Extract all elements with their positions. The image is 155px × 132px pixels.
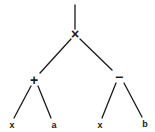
- leaf-x-left: x: [9, 120, 14, 130]
- edge-minus-to-b: [124, 83, 142, 117]
- edge-root-to-minus: [80, 39, 112, 70]
- edge-plus-to-x: [14, 86, 31, 118]
- expression-tree-diagram: × + − x a x b: [0, 0, 155, 132]
- node-minus: −: [115, 69, 123, 85]
- edge-plus-to-a: [38, 86, 51, 118]
- edge-root-to-plus: [40, 39, 71, 73]
- leaf-x-right: x: [97, 120, 102, 130]
- leaf-a: a: [51, 120, 57, 130]
- node-multiply: ×: [71, 26, 79, 42]
- leaf-b: b: [142, 119, 148, 129]
- edge-minus-to-x: [102, 83, 116, 118]
- node-plus: +: [30, 72, 38, 88]
